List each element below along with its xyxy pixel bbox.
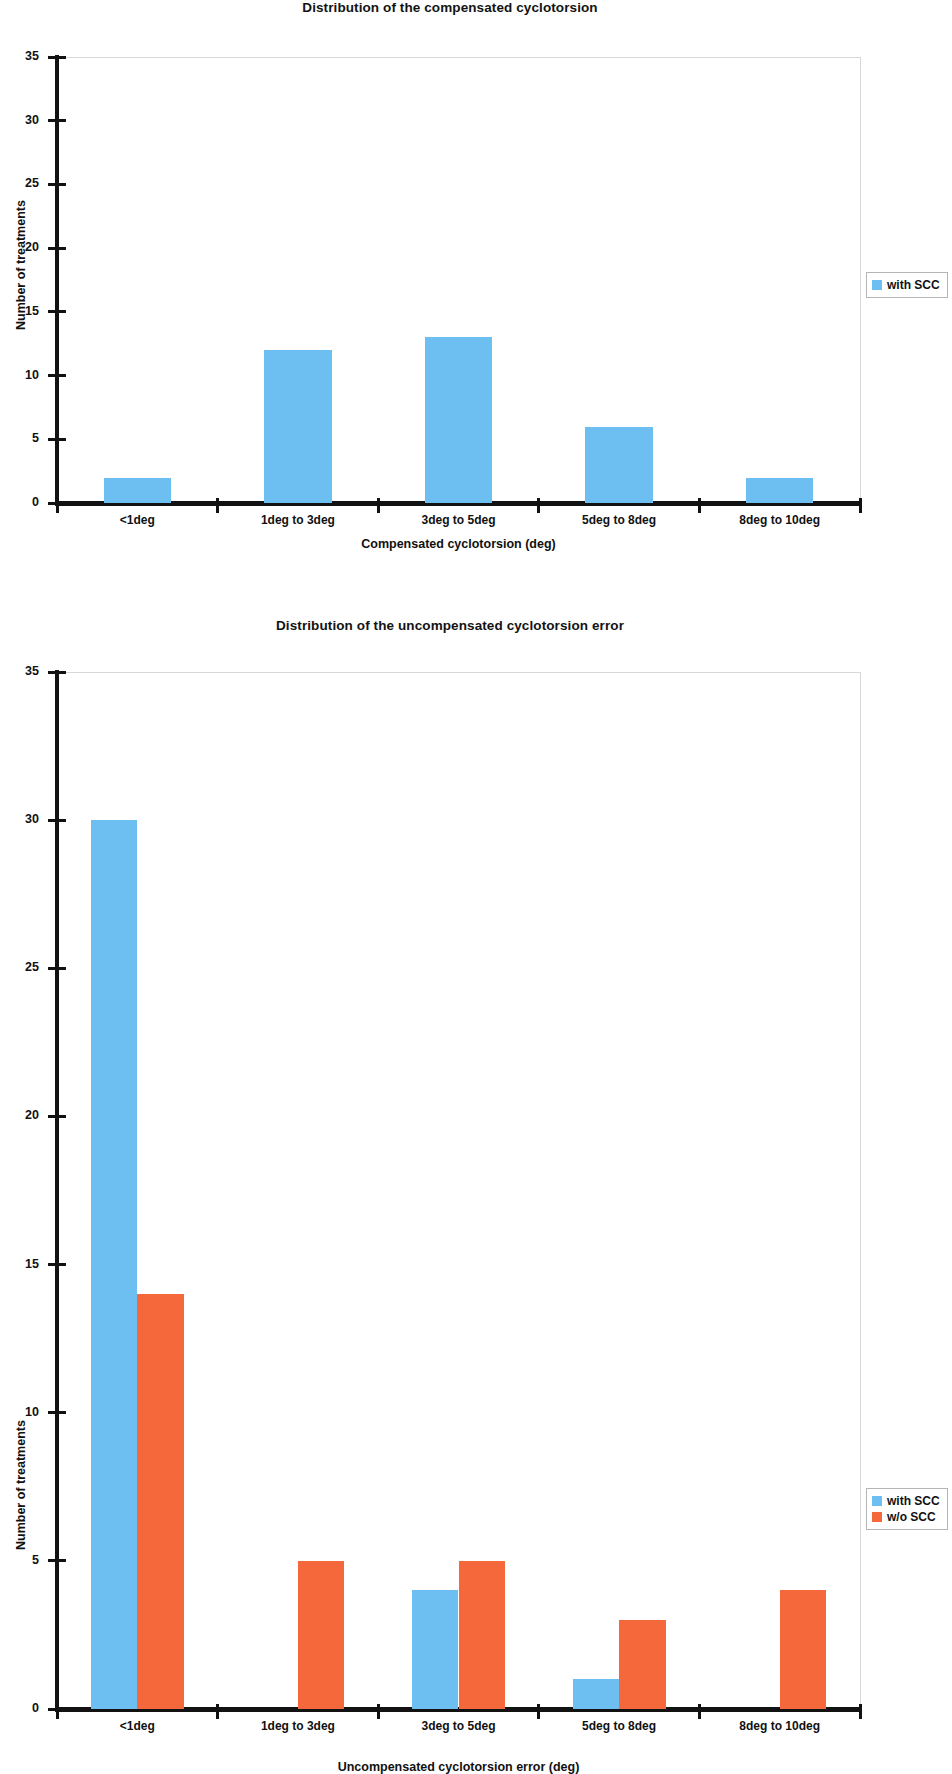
x-axis-title: Compensated cyclotorsion (deg) (57, 537, 860, 551)
legend-item-label: w/o SCC (887, 1510, 936, 1524)
x-axis-tick (56, 1704, 59, 1719)
y-axis-title: Number of treatments (14, 1420, 28, 1550)
chart-compensated-cyclotorsion: Distribution of the compensated cyclotor… (0, 0, 952, 570)
y-axis-tick-label: 35 (5, 49, 39, 63)
x-axis-tick-label: <1deg (62, 1719, 212, 1733)
y-axis-tick (48, 247, 66, 250)
chart-title: Distribution of the uncompensated cyclot… (0, 618, 900, 633)
x-axis-tick (377, 1704, 380, 1719)
y-axis-tick (48, 819, 66, 822)
y-axis-tick (48, 310, 66, 313)
y-axis-tick (48, 56, 66, 59)
bar (264, 350, 331, 503)
y-axis-tick-label: 0 (5, 1701, 39, 1715)
x-axis-tick-label: 1deg to 3deg (223, 1719, 373, 1733)
legend-item[interactable]: w/o SCC (872, 1509, 940, 1525)
x-axis-title: Uncompensated cyclotorsion error (deg) (57, 1760, 860, 1774)
chart-uncompensated-cyclotorsion-error: Distribution of the uncompensated cyclot… (0, 600, 952, 1182)
x-axis-tick (859, 498, 862, 513)
legend-item[interactable]: with SCC (872, 277, 940, 293)
y-axis-tick-label: 15 (5, 1257, 39, 1271)
y-axis-title: Number of treatments (14, 200, 28, 330)
y-axis-tick (48, 438, 66, 441)
y-axis-tick-label: 5 (5, 1553, 39, 1567)
y-axis-tick (48, 671, 66, 674)
bar (137, 1294, 184, 1709)
x-axis-tick (216, 1704, 219, 1719)
chart-title: Distribution of the compensated cyclotor… (0, 0, 900, 15)
bar (104, 478, 171, 503)
legend-item-label: with SCC (887, 1494, 940, 1508)
x-axis-tick (377, 498, 380, 513)
y-axis-tick-label: 30 (5, 113, 39, 127)
y-axis-tick (48, 1263, 66, 1266)
y-axis-tick-label: 10 (5, 1405, 39, 1419)
x-axis-tick-label: 8deg to 10deg (705, 1719, 855, 1733)
y-axis-tick (48, 1411, 66, 1414)
legend-item-label: with SCC (887, 278, 940, 292)
y-axis-tick (48, 119, 66, 122)
x-axis-tick (537, 498, 540, 513)
bar (619, 1620, 666, 1709)
bar (298, 1561, 345, 1709)
bar (746, 478, 813, 503)
y-axis-tick-label: 35 (5, 664, 39, 678)
y-axis-tick (48, 183, 66, 186)
y-axis-tick-label: 10 (5, 368, 39, 382)
legend-swatch-icon (872, 280, 882, 290)
bar (412, 1590, 459, 1709)
y-axis-tick-label: 30 (5, 812, 39, 826)
y-axis-line (55, 670, 59, 1711)
legend-item[interactable]: with SCC (872, 1493, 940, 1509)
bar (459, 1561, 506, 1709)
x-axis-tick (698, 1704, 701, 1719)
bar (585, 427, 652, 503)
chart-legend: with SCC (866, 272, 948, 298)
y-axis-tick-label: 5 (5, 431, 39, 445)
x-axis-tick (698, 498, 701, 513)
legend-swatch-icon (872, 1496, 882, 1506)
bar (425, 337, 492, 503)
y-axis-tick (48, 1115, 66, 1118)
x-axis-tick-label: 1deg to 3deg (223, 513, 373, 527)
x-axis-tick-label: 3deg to 5deg (384, 1719, 534, 1733)
bar (91, 820, 138, 1709)
y-axis-tick-label: 20 (5, 1108, 39, 1122)
x-axis-tick-label: 3deg to 5deg (384, 513, 534, 527)
x-axis-tick-label: 5deg to 8deg (544, 513, 694, 527)
x-axis-tick (216, 498, 219, 513)
x-axis-tick (56, 498, 59, 513)
y-axis-tick (48, 967, 66, 970)
bar (780, 1590, 827, 1709)
legend-swatch-icon (872, 1512, 882, 1522)
y-axis-tick-label: 0 (5, 495, 39, 509)
x-axis-tick (859, 1704, 862, 1719)
y-axis-tick-label: 25 (5, 960, 39, 974)
y-axis-tick (48, 1559, 66, 1562)
chart-legend: with SCCw/o SCC (866, 1488, 948, 1530)
bar (573, 1679, 620, 1709)
x-axis-tick (537, 1704, 540, 1719)
x-axis-tick-label: 8deg to 10deg (705, 513, 855, 527)
y-axis-tick-label: 25 (5, 176, 39, 190)
x-axis-tick-label: <1deg (62, 513, 212, 527)
x-axis-tick-label: 5deg to 8deg (544, 1719, 694, 1733)
y-axis-tick (48, 374, 66, 377)
